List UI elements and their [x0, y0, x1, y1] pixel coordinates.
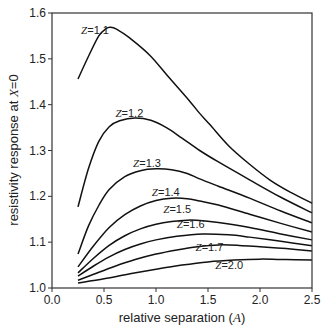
x-tick-label: 2.5 — [304, 293, 321, 307]
curve-label: Z=1.6 — [177, 218, 205, 230]
chart: 0.00.51.01.52.02.51.01.11.21.31.41.51.6 … — [0, 0, 328, 329]
plot-frame — [52, 13, 312, 288]
curve-label: Z=1.7 — [196, 241, 224, 253]
y-tick-label: 1.0 — [29, 281, 46, 295]
curve-z-1-2 — [78, 118, 312, 213]
curve-label-value: =1.1 — [87, 24, 109, 36]
x-tick-label: 0.0 — [44, 293, 61, 307]
curve-label-value: =2.0 — [221, 259, 243, 271]
y-axis-title-suffix: =0 — [6, 74, 21, 89]
x-axis-title: relative separation (A) — [119, 310, 245, 325]
y-tick-label: 1.5 — [29, 52, 46, 66]
curve-z-1-6 — [78, 234, 312, 276]
x-tick-label: 1.0 — [148, 293, 165, 307]
curve-label-value: =1.5 — [169, 203, 191, 215]
curve-z-2-0 — [78, 259, 312, 283]
y-tick-label: 1.3 — [29, 144, 46, 158]
curve-label: Z=1.2 — [115, 107, 143, 119]
x-axis-title-suffix: ) — [241, 310, 245, 325]
curve-label-value: =1.3 — [139, 157, 161, 169]
x-tick-label: 0.5 — [96, 293, 113, 307]
y-axis-title: resistivity response at X=0 — [6, 74, 21, 225]
x-axis-title-text: relative separation ( — [119, 310, 234, 325]
curve-label: Z=2.0 — [215, 259, 243, 271]
y-tick-label: 1.2 — [29, 189, 46, 203]
tick-labels: 0.00.51.01.52.02.51.01.11.21.31.41.51.6 — [29, 6, 320, 307]
x-tick-label: 2.0 — [252, 293, 269, 307]
y-tick-label: 1.6 — [29, 6, 46, 20]
curve-label: Z=1.3 — [133, 157, 161, 169]
curve-label-value: =1.2 — [122, 107, 144, 119]
curve-label-value: =1.4 — [158, 186, 180, 198]
curve-label: Z=1.4 — [152, 186, 180, 198]
curve-label-value: =1.7 — [202, 241, 224, 253]
curve-label-value: =1.6 — [183, 218, 205, 230]
y-tick-label: 1.1 — [29, 235, 46, 249]
y-tick-label: 1.4 — [29, 98, 46, 112]
x-axis-title-var: A — [232, 310, 241, 325]
y-axis-title-text: resistivity response at — [6, 97, 21, 226]
curve-label: Z=1.5 — [163, 203, 191, 215]
curve-label: Z=1.1 — [81, 24, 109, 36]
x-tick-label: 1.5 — [200, 293, 217, 307]
